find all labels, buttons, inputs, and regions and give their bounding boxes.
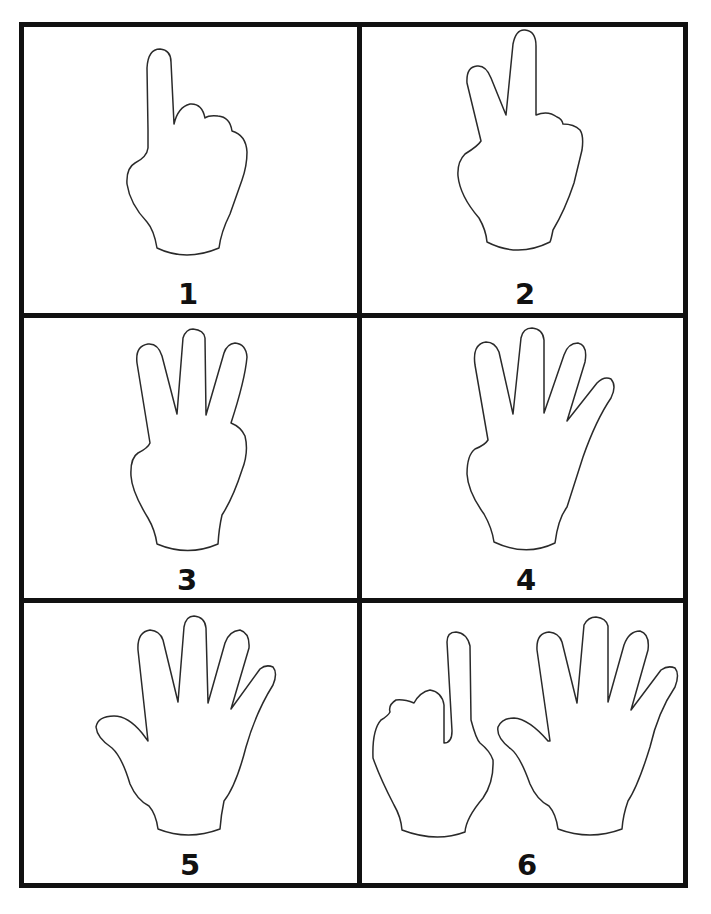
hand-six-right-five-fingers-icon — [498, 617, 678, 835]
hand-illustrations — [0, 0, 711, 914]
card-5-number-label: 5 — [160, 850, 220, 880]
hand-five-fingers-icon — [96, 616, 276, 835]
card-3-number-label: 3 — [157, 565, 217, 595]
hand-one-finger-icon — [127, 49, 247, 255]
counting-worksheet: 1 2 3 4 5 6 — [0, 0, 711, 914]
hand-two-fingers-icon — [458, 30, 583, 250]
card-2-number-label: 2 — [495, 279, 555, 309]
hand-four-fingers-icon — [467, 328, 614, 550]
hand-three-fingers-icon — [131, 329, 247, 551]
card-6-number-label: 6 — [497, 850, 557, 880]
hand-six-left-one-finger-icon — [373, 632, 493, 837]
card-4-number-label: 4 — [496, 565, 556, 595]
card-1-number-label: 1 — [158, 279, 218, 309]
